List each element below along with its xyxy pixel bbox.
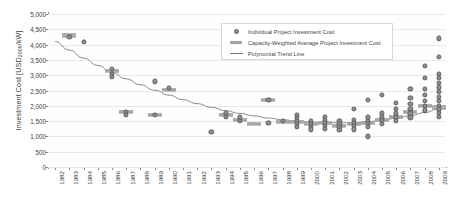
- x-tick-label: 1988: [143, 171, 150, 185]
- x-tick-label: 1982: [58, 171, 65, 185]
- circle-marker-icon: [229, 29, 243, 34]
- x-tick-label: 1998: [285, 171, 292, 185]
- legend-label-trend: Polynomial Trend Line: [248, 51, 304, 57]
- x-tick-label: 2004: [370, 171, 377, 185]
- x-tick-label: 1999: [299, 171, 306, 185]
- legend-label-individual: Individual Project Investment Cost: [248, 29, 334, 35]
- x-tick-label: 1984: [86, 171, 93, 185]
- x-tick-label: 2000: [313, 171, 320, 185]
- dash-marker-icon: [229, 41, 243, 44]
- x-tick-label: 1987: [129, 171, 136, 185]
- x-tick-label: 1983: [72, 171, 79, 185]
- x-tick-label: 1997: [271, 171, 278, 185]
- x-tick-label: 2005: [384, 171, 391, 185]
- x-tick-label: 1991: [185, 171, 192, 185]
- x-tick-label: 1995: [242, 171, 249, 185]
- legend-item-individual: Individual Project Investment Cost: [229, 26, 334, 37]
- x-tick-label: 2008: [427, 171, 434, 185]
- x-tick-label: 2002: [342, 171, 349, 185]
- x-tick-label: 2007: [413, 171, 420, 185]
- investment-cost-scatter-chart: Investment Cost [USD2009/kW] 05001,0001,…: [0, 0, 451, 210]
- x-tick-label: 1993: [214, 171, 221, 185]
- x-tick-label: 2006: [399, 171, 406, 185]
- legend-label-average: Capacity-Weighted Average Project Invest…: [248, 40, 381, 46]
- x-tick-label: 1989: [157, 171, 164, 185]
- gridline: [48, 167, 446, 168]
- line-marker-icon: [229, 53, 243, 54]
- legend-item-trend: Polynomial Trend Line: [229, 48, 304, 59]
- average-marker: [247, 122, 261, 125]
- x-tick-label: 1986: [114, 171, 121, 185]
- x-tick-label: 1996: [257, 171, 264, 185]
- x-tick-label: 2003: [356, 171, 363, 185]
- x-tick-label: 2009: [441, 171, 448, 185]
- legend: Individual Project Investment Cost Capac…: [221, 23, 393, 60]
- x-tick-label: 1994: [228, 171, 235, 185]
- x-tick-label: 1990: [171, 171, 178, 185]
- x-tick-label: 1985: [100, 171, 107, 185]
- legend-item-average: Capacity-Weighted Average Project Invest…: [229, 37, 381, 48]
- x-tick-label: 2001: [328, 171, 335, 185]
- x-tick-label: 1992: [200, 171, 207, 185]
